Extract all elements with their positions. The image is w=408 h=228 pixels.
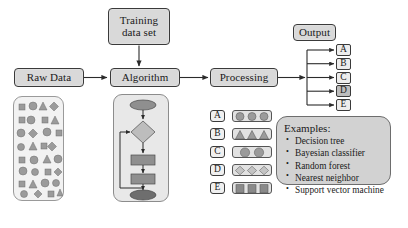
output-chip-a[interactable]: A [336, 44, 351, 56]
legend-swatch-d-icon [233, 165, 271, 176]
raw-data-box[interactable]: Raw Data [14, 68, 84, 87]
examples-item-bayesian-classifier: Bayesian classifier [284, 147, 384, 159]
legend-swatch-c-icon [233, 147, 271, 158]
examples-card: Examples: Decision tree Bayesian classif… [276, 116, 391, 185]
examples-title: Examples: [284, 122, 384, 134]
algorithm-box[interactable]: Algorithm [110, 68, 180, 87]
legend-label-c-text: C [214, 147, 220, 157]
legend-swatch-e-squares [232, 182, 272, 194]
algorithm-flowchart [114, 95, 168, 201]
legend-label-d[interactable]: D [210, 164, 225, 176]
legend-label-b-text: B [214, 129, 220, 139]
flow-decision-diamond [131, 121, 155, 143]
diagram-canvas: Training data set Raw Data Algorithm Pro… [0, 0, 408, 228]
legend-label-a-text: A [214, 111, 221, 121]
processing-label: Processing [220, 72, 269, 84]
legend-swatch-b-triangles [232, 128, 272, 140]
output-chip-c[interactable]: C [336, 72, 351, 84]
raw-data-cloud-panel [13, 96, 64, 201]
examples-item-decision-tree: Decision tree [284, 135, 384, 147]
legend-label-c[interactable]: C [210, 146, 225, 158]
flow-end-ellipse [130, 190, 156, 200]
raw-data-label: Raw Data [27, 72, 71, 84]
legend-swatch-d-diamonds [232, 164, 272, 176]
algorithm-label: Algorithm [122, 72, 169, 84]
output-label: Output [299, 27, 330, 39]
examples-item-support-vector-machine: Support vector machine [284, 184, 384, 196]
output-box[interactable]: Output [293, 24, 336, 41]
examples-item-random-forest: Random forest [284, 160, 384, 172]
legend-swatch-b-icon [233, 129, 271, 140]
legend-swatch-a-icon [233, 111, 271, 122]
training-data-set-line2: data set [122, 27, 156, 39]
training-data-set-box[interactable]: Training data set [108, 8, 170, 45]
output-chip-b-label: B [340, 59, 346, 69]
output-chip-a-label: A [340, 45, 347, 55]
output-chip-e-label: E [341, 100, 347, 110]
legend-swatch-e-icon [233, 183, 271, 194]
training-data-set-line1: Training [120, 15, 158, 27]
legend-label-e[interactable]: E [210, 182, 225, 194]
examples-list: Decision tree Bayesian classifier Random… [284, 135, 384, 196]
legend-swatch-a-circles [232, 110, 272, 122]
flow-process-1 [131, 155, 155, 165]
flow-process-2 [131, 174, 155, 184]
output-chip-c-label: C [340, 73, 346, 83]
output-chip-b[interactable]: B [336, 58, 351, 70]
flow-start-ellipse [130, 100, 156, 110]
algorithm-flowchart-panel [113, 94, 169, 202]
legend-label-b[interactable]: B [210, 128, 225, 140]
processing-box[interactable]: Processing [210, 68, 278, 87]
legend-label-d-text: D [214, 165, 221, 175]
output-chip-d[interactable]: D [336, 85, 351, 97]
legend-swatch-c-circles [232, 146, 272, 158]
raw-data-shapes [14, 97, 63, 200]
legend-label-a[interactable]: A [210, 110, 225, 122]
output-chip-e[interactable]: E [336, 99, 351, 111]
output-chip-d-label: D [340, 86, 347, 96]
legend-label-e-text: E [215, 183, 221, 193]
examples-item-nearest-neighbor: Nearest neighbor [284, 172, 384, 184]
